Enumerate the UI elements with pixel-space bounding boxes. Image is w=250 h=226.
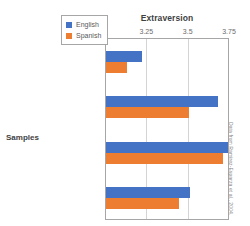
x-tick-label: 3.75 bbox=[222, 28, 236, 35]
legend-swatch-spanish bbox=[66, 33, 72, 39]
bar-spanish bbox=[106, 198, 179, 209]
chart-title: Extraversion bbox=[105, 13, 229, 23]
x-tick-label: 3.25 bbox=[140, 28, 154, 35]
bar-spanish bbox=[106, 153, 223, 164]
chart-legend: English Spanish bbox=[61, 15, 108, 45]
bar-spanish bbox=[106, 107, 189, 118]
bar-spanish bbox=[106, 62, 127, 73]
chart-figure: Extraversion 33.253.53.75 Samples Englis… bbox=[0, 0, 250, 226]
legend-label-english: English bbox=[76, 21, 99, 28]
bar-english bbox=[106, 96, 218, 107]
legend-item-english[interactable]: English bbox=[66, 19, 101, 30]
bar-english bbox=[106, 142, 228, 153]
source-credit: Data from Ramirez-Esparza et al., 2004. bbox=[228, 122, 234, 222]
legend-item-spanish[interactable]: Spanish bbox=[66, 30, 101, 41]
y-axis-title: Samples bbox=[6, 133, 39, 142]
plot-area bbox=[105, 38, 229, 220]
bar-english bbox=[106, 51, 142, 62]
x-axis-tick-labels: 33.253.53.75 bbox=[0, 28, 250, 38]
bar-english bbox=[106, 187, 190, 198]
legend-label-spanish: Spanish bbox=[76, 32, 101, 39]
legend-swatch-english bbox=[66, 22, 72, 28]
x-tick-label: 3.5 bbox=[183, 28, 193, 35]
